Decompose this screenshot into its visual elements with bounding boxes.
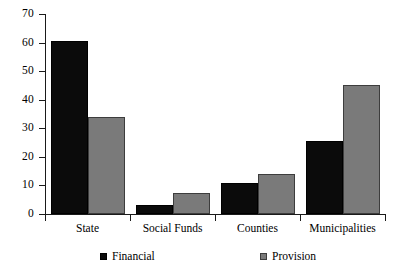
bar-provision-social-funds <box>173 193 210 214</box>
legend-item-financial: Financial <box>100 250 155 263</box>
x-axis-tick <box>300 215 301 221</box>
x-axis-tick <box>130 215 131 221</box>
provision-swatch <box>260 253 267 260</box>
legend-item-label: Financial <box>112 250 155 263</box>
chart-legend: FinancialProvision <box>0 250 419 270</box>
bar-financial-counties <box>221 183 258 214</box>
bar-chart: 010203040506070 StateSocial FundsCountie… <box>0 0 419 274</box>
y-axis-label: 30 <box>6 122 34 134</box>
bar-financial-social-funds <box>136 205 173 214</box>
y-axis-label: 60 <box>6 37 34 49</box>
y-axis-label: 10 <box>6 179 34 191</box>
y-axis-label: 40 <box>6 94 34 106</box>
legend-item-label: Provision <box>272 250 316 263</box>
legend-item-provision: Provision <box>260 250 316 263</box>
x-axis-label-counties: Counties <box>215 222 300 235</box>
bar-financial-state <box>51 41 88 214</box>
bar-provision-counties <box>258 174 295 214</box>
x-axis-tick <box>215 215 216 221</box>
bar-provision-state <box>88 117 125 214</box>
plot-area <box>45 14 385 214</box>
x-axis-label-state: State <box>45 222 130 235</box>
x-axis-tick <box>385 215 386 221</box>
x-axis-tick <box>45 215 46 221</box>
bar-provision-municipalities <box>343 85 380 214</box>
x-axis-label-municipalities: Municipalities <box>300 222 385 235</box>
y-axis-label: 50 <box>6 65 34 77</box>
y-axis-label: 20 <box>6 151 34 163</box>
y-axis-label: 0 <box>6 208 34 220</box>
y-axis-label: 70 <box>6 8 34 20</box>
financial-swatch <box>100 253 107 260</box>
bar-financial-municipalities <box>306 141 343 214</box>
x-axis-label-social-funds: Social Funds <box>130 222 215 235</box>
